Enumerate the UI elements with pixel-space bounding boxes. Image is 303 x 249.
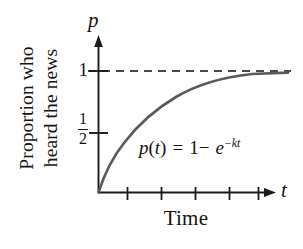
y-axis-title-line-2: heard the news <box>39 46 63 169</box>
equation-exponent-body: kt <box>232 137 241 150</box>
equation-base: e <box>215 137 223 158</box>
x-axis-arrow-icon <box>264 188 276 197</box>
y-axis-title-line-1: Proportion who <box>15 46 39 169</box>
fraction-one-half: 1 2 <box>78 111 88 148</box>
equation-exponent-minus: − <box>224 137 232 150</box>
x-axis-ticks <box>128 187 259 200</box>
equation-constant: 1 <box>189 137 199 158</box>
x-axis-variable-label: t <box>281 178 287 203</box>
equation-annotation: p(t)=1−e−kt <box>139 137 240 159</box>
exponential-curve <box>99 73 289 193</box>
news-diffusion-figure: p t 1 1 2 p(t)=1−e−kt Proportion who hea… <box>0 0 303 249</box>
equation-exponent: −kt <box>224 137 240 150</box>
y-axis-arrow-icon <box>94 35 103 47</box>
equation-equals: = <box>172 137 183 158</box>
equation-close-paren: ) <box>160 137 166 158</box>
x-axis-title: Time <box>98 206 274 231</box>
fraction-numerator: 1 <box>78 111 88 128</box>
equation-function-name: p <box>139 137 149 158</box>
y-axis-title: Proportion who heard the news <box>15 46 63 169</box>
fraction-denominator: 2 <box>78 130 88 147</box>
y-axis-title-wrapper: Proportion who heard the news <box>0 0 78 215</box>
y-axis-variable-label: p <box>88 8 99 33</box>
equation-minus: − <box>199 137 210 158</box>
